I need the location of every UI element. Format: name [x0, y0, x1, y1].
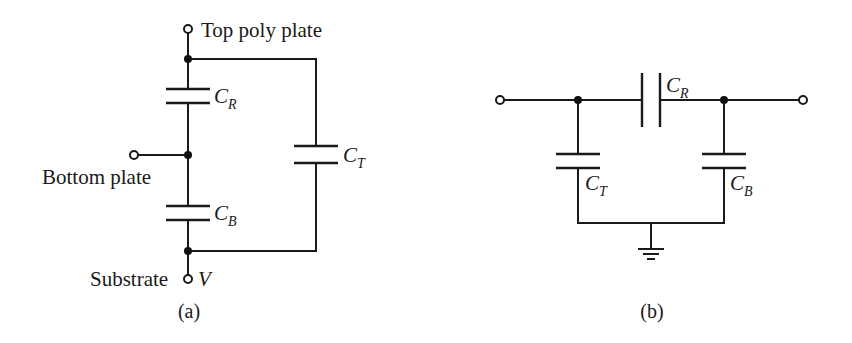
- label-bottom-plate: Bottom plate: [42, 165, 151, 189]
- label-cr-b: CR: [666, 73, 689, 101]
- junction-node-left: [574, 96, 582, 104]
- label-top-poly-plate: Top poly plate: [201, 18, 322, 42]
- label-substrate-voltage: V: [198, 267, 213, 291]
- terminal-top-poly-plate: [184, 25, 192, 33]
- label-ct-a: CT: [343, 143, 366, 171]
- capacitor-ct-b: [556, 154, 600, 168]
- capacitor-cr-a: [166, 89, 210, 103]
- figure-a: Top poly plate Bottom plate Substrate V …: [42, 18, 366, 323]
- capacitor-ct-a: [294, 146, 338, 163]
- label-cb-a: CB: [214, 201, 237, 229]
- terminal-substrate: [184, 275, 192, 283]
- label-cb-b: CB: [730, 171, 753, 199]
- junction-node-right: [720, 96, 728, 104]
- terminal-bottom-plate: [130, 151, 138, 159]
- caption-a: (a): [178, 300, 200, 323]
- junction-node-bottom: [184, 247, 192, 255]
- label-ct-b: CT: [585, 171, 608, 199]
- capacitor-cb-b: [702, 154, 746, 168]
- capacitor-cb-a: [166, 206, 210, 220]
- capacitor-cr-b: [642, 73, 660, 127]
- terminal-right: [799, 96, 807, 104]
- junction-node-top: [184, 55, 192, 63]
- terminal-left: [496, 96, 504, 104]
- label-substrate: Substrate: [90, 267, 168, 291]
- ground-icon: [639, 249, 663, 259]
- caption-b: (b): [640, 300, 663, 323]
- figure-b: CR CT CB (b): [496, 73, 807, 323]
- junction-node-middle: [184, 151, 192, 159]
- label-cr-a: CR: [214, 84, 237, 112]
- capacitor-equivalent-circuit-diagram: Top poly plate Bottom plate Substrate V …: [0, 0, 852, 343]
